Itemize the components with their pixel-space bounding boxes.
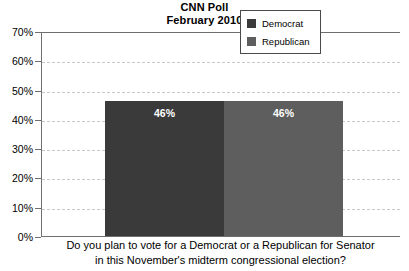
legend-item-democrat: Democrat (247, 16, 310, 30)
chart-container: CNN Poll February 2010 0%10%20%30%40%50%… (0, 0, 409, 271)
legend-item-republican: Republican (247, 34, 310, 48)
bar-value-label: 46% (224, 107, 343, 119)
chart-title-block: CNN Poll February 2010 (0, 1, 409, 26)
y-tick-label: 20% (0, 173, 33, 184)
bar-value-label: 46% (105, 107, 224, 119)
y-tick-label: 30% (0, 144, 33, 155)
plot-area: 46%46% (41, 32, 400, 237)
caption-line-2: in this November's midterm congressional… (41, 253, 400, 268)
y-tick-label: 60% (0, 56, 33, 67)
chart-title: CNN Poll (0, 1, 409, 13)
legend-swatch-democrat-icon (247, 19, 256, 28)
legend-label-democrat: Democrat (262, 18, 303, 29)
bar-series: 46%46% (42, 33, 400, 236)
chart-caption: Do you plan to vote for a Democrat or a … (41, 238, 400, 267)
legend-swatch-republican-icon (247, 37, 256, 46)
y-tick-label: 10% (0, 202, 33, 213)
y-tick-label: 70% (0, 27, 33, 38)
legend: Democrat Republican (240, 10, 321, 54)
bar-republican: 46% (224, 101, 343, 236)
y-tick-label: 50% (0, 85, 33, 96)
legend-label-republican: Republican (262, 36, 310, 47)
y-tick-label: 0% (0, 232, 33, 243)
y-tick-label: 40% (0, 114, 33, 125)
caption-line-1: Do you plan to vote for a Democrat or a … (41, 238, 400, 253)
bar-democrat: 46% (105, 101, 224, 236)
chart-subtitle: February 2010 (0, 14, 409, 26)
